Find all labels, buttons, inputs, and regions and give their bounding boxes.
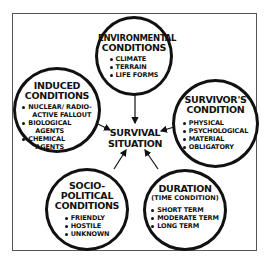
induced-item: CHEMICAL (22, 135, 91, 143)
survivor-item: PHYSICAL (183, 119, 249, 127)
environmental-list: CLIMATE TERRAIN LIFE FORMS (110, 55, 159, 79)
induced-item: NUCLEAR/ RADIO- (22, 103, 91, 111)
induced-title-line2: CONDITIONS (16, 91, 98, 101)
induced-item-continued: ACTIVE FALLOUT (22, 111, 91, 119)
node-environmental-conditions: ENVIRONMENTAL CONDITIONS CLIMATE TERRAIN… (95, 16, 173, 96)
environmental-item: CLIMATE (110, 55, 159, 63)
survivor-item: PSYCHOLOGICAL (183, 127, 249, 135)
environmental-item: TERRAIN (110, 63, 159, 71)
duration-subtitle: (TIME CONDITION) (146, 194, 224, 202)
arrow-from-sociopolitical (114, 150, 126, 169)
survivor-item: MATERIAL (183, 135, 249, 143)
induced-list: NUCLEAR/ RADIO- ACTIVE FALLOUT BIOLOGICA… (22, 103, 91, 151)
sociopolitical-item: UNKNOWN (65, 230, 110, 238)
sociopolitical-list: FRIENDLY HOSTILE UNKNOWN (65, 214, 110, 238)
duration-list: SHORT TERM MODERATE TERM LONG TERM (151, 206, 219, 230)
duration-item: MODERATE TERM (151, 214, 219, 222)
sociopolitical-item: FRIENDLY (65, 214, 110, 222)
center-line1: SURVIVAL (105, 127, 165, 138)
induced-item-continued: AGENTS (22, 127, 91, 135)
duration-item: SHORT TERM (151, 206, 219, 214)
node-survivors-condition: SURVIVOR'S CONDITION PHYSICAL PSYCHOLOGI… (172, 79, 259, 168)
survivor-list: PHYSICAL PSYCHOLOGICAL MATERIAL OBLIGATO… (183, 119, 249, 151)
duration-title: DURATION (146, 184, 224, 194)
survivor-title-line2: CONDITION (175, 105, 256, 115)
duration-item: LONG TERM (151, 222, 219, 230)
sociopolitical-title-line3: CONDITIONS (48, 201, 126, 211)
arrow-from-duration (145, 150, 158, 169)
induced-item-continued: AGENTS (22, 143, 91, 151)
environmental-title-line2: CONDITIONS (98, 43, 170, 53)
induced-item: BIOLOGICAL (22, 119, 91, 127)
node-induced-conditions: INDUCED CONDITIONS NUCLEAR/ RADIO- ACTIV… (13, 67, 101, 153)
environmental-item: LIFE FORMS (110, 71, 159, 79)
survivor-item: OBLIGATORY (183, 143, 249, 151)
node-sociopolitical-conditions: SOCIO- POLITICAL CONDITIONS FRIENDLY HOS… (45, 168, 129, 251)
center-line2: SITUATION (105, 138, 165, 149)
center-survival-situation: SURVIVAL SITUATION (105, 127, 165, 149)
sociopolitical-item: HOSTILE (65, 222, 110, 230)
node-duration: DURATION (TIME CONDITION) SHORT TERM MOD… (143, 169, 227, 251)
